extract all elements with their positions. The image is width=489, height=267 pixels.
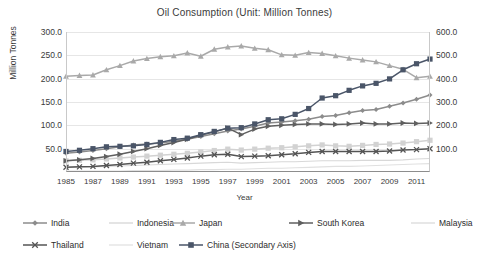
legend-swatch (178, 239, 204, 251)
y-tick-label-primary: 100.0 (22, 120, 62, 130)
y-tick-label-primary: 150.0 (22, 97, 62, 107)
chart-page: Oil Consumption (Unit: Million Tonnes) M… (0, 0, 489, 267)
legend-swatch (22, 239, 48, 251)
legend-label: South Korea (317, 218, 364, 228)
legend-label: Malaysia (439, 218, 473, 228)
legend-item-indonesia[interactable]: Indonesia (108, 214, 174, 232)
legend-swatch (108, 217, 134, 229)
y-tick-label-secondary: 500.0 (436, 50, 476, 60)
legend-swatch (410, 217, 436, 229)
legend-swatch (108, 239, 134, 251)
x-tick-label: 2011 (397, 177, 437, 186)
y-tick-label-primary: 200.0 (22, 74, 62, 84)
legend-label: China (Secondary Axis) (207, 240, 296, 250)
chart-title: Oil Consumption (Unit: Million Tonnes) (0, 7, 489, 18)
legend-item-thailand[interactable]: Thailand (22, 236, 84, 254)
legend-item-india[interactable]: India (22, 214, 69, 232)
y-axis-label-primary: Million Tonnes (8, 18, 18, 88)
chart-legend: IndiaIndonesiaJapanSouth KoreaMalaysiaTh… (0, 214, 489, 258)
plot-frame (66, 32, 430, 172)
legend-item-south-korea[interactable]: South Korea (288, 214, 364, 232)
y-tick-label-secondary: 300.0 (436, 97, 476, 107)
y-tick-label-secondary: 200.0 (436, 120, 476, 130)
legend-row: ThailandVietnamChina (Secondary Axis) (0, 236, 489, 254)
legend-item-japan[interactable]: Japan (170, 214, 222, 232)
legend-row: IndiaIndonesiaJapanSouth KoreaMalaysia (0, 214, 489, 232)
legend-item-china-secondary-axis[interactable]: China (Secondary Axis) (178, 236, 296, 254)
legend-label: Thailand (51, 240, 84, 250)
plot-area (66, 32, 430, 172)
legend-label: Vietnam (137, 240, 168, 250)
legend-item-malaysia[interactable]: Malaysia (410, 214, 473, 232)
legend-swatch (22, 217, 48, 229)
legend-swatch (288, 217, 314, 229)
y-tick-label-secondary: 100.0 (436, 144, 476, 154)
y-tick-label-secondary: 600.0 (436, 27, 476, 37)
y-tick-label-secondary: 400.0 (436, 74, 476, 84)
y-tick-label-primary: 250.0 (22, 50, 62, 60)
legend-label: India (51, 218, 69, 228)
y-tick-label-primary: 50.0 (22, 144, 62, 154)
legend-label: Japan (199, 218, 222, 228)
x-axis-label: Year (0, 193, 489, 202)
legend-item-vietnam[interactable]: Vietnam (108, 236, 168, 254)
y-tick-label-primary: 300.0 (22, 27, 62, 37)
legend-swatch (170, 217, 196, 229)
legend-label: Indonesia (137, 218, 174, 228)
